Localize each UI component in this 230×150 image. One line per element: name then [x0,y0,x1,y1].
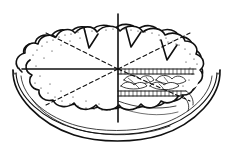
illustration-canvas: Pie with one slice cut out double-crust … [0,0,230,150]
pie-illustration: Pie with one slice cut out [0,0,230,150]
top-crust-silhouette [16,26,203,110]
top-crust [16,26,203,110]
